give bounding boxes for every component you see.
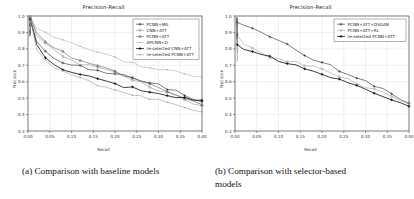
legend-label: re-selected PCNN+ATT (147, 52, 195, 57)
legend-label: re-selected CNN+ATT (147, 46, 192, 51)
svg-text:0.20: 0.20 (317, 134, 327, 139)
caption-b-line2: models (215, 178, 400, 191)
svg-text:0.3: 0.3 (225, 129, 232, 134)
legend-label: PCNN+ATT+RL (348, 28, 380, 33)
svg-text:0.05: 0.05 (252, 134, 262, 139)
legend-label: PCNN+ATT+DSGAN (348, 22, 389, 27)
svg-text:0.20: 0.20 (110, 134, 120, 139)
svg-text:0.05: 0.05 (45, 134, 55, 139)
svg-text:1.0: 1.0 (225, 14, 232, 19)
svg-text:0.6: 0.6 (18, 79, 25, 84)
panel-b-plot: 0.000.050.100.150.200.250.300.350.400.30… (207, 0, 414, 158)
svg-text:0.8: 0.8 (225, 46, 232, 51)
caption-a: (a) Comparison with baseline models (0, 158, 207, 199)
svg-text:0.5: 0.5 (225, 96, 232, 101)
svg-text:0.35: 0.35 (383, 134, 393, 139)
svg-text:1.0: 1.0 (18, 14, 25, 19)
legend-label: CNN+ATT (147, 28, 168, 33)
legend-label: APCNN+D (147, 40, 168, 45)
svg-text:0.10: 0.10 (274, 134, 284, 139)
svg-text:0.3: 0.3 (18, 129, 25, 134)
caption-b: (b) Comparison with selector-based model… (207, 158, 414, 199)
svg-text:0.4: 0.4 (18, 112, 25, 117)
svg-text:0.15: 0.15 (89, 134, 99, 139)
legend-label: PCNN+MIL (147, 22, 170, 27)
figure-captions: (a) Comparison with baseline models (b) … (0, 158, 414, 199)
svg-text:0.5: 0.5 (18, 96, 25, 101)
caption-b-line1: (b) Comparison with selector-based (215, 165, 400, 178)
svg-text:0.00: 0.00 (23, 134, 33, 139)
svg-text:0.9: 0.9 (225, 30, 232, 35)
svg-text:0.7: 0.7 (225, 63, 232, 68)
svg-text:0.00: 0.00 (230, 134, 240, 139)
svg-text:0.35: 0.35 (176, 134, 186, 139)
svg-text:0.8: 0.8 (18, 46, 25, 51)
svg-text:0.40: 0.40 (404, 134, 414, 139)
svg-text:0.9: 0.9 (18, 30, 25, 35)
svg-text:0.30: 0.30 (154, 134, 164, 139)
panel-b: Precision-Recall Precision Recall 0.000.… (207, 0, 414, 158)
svg-text:0.7: 0.7 (18, 63, 25, 68)
svg-text:0.15: 0.15 (296, 134, 306, 139)
svg-text:0.30: 0.30 (361, 134, 371, 139)
figure-precision-recall: Precision-Recall Precision Recall 0.000.… (0, 0, 414, 199)
panel-a: Precision-Recall Precision Recall 0.000.… (0, 0, 207, 158)
legend-label: re-selected PCNN+ATT (348, 34, 396, 39)
legend-label: PCNN+ATT (147, 34, 170, 39)
svg-text:0.6: 0.6 (225, 79, 232, 84)
panel-a-plot: 0.000.050.100.150.200.250.300.350.400.30… (0, 0, 207, 158)
svg-text:0.10: 0.10 (67, 134, 77, 139)
svg-text:0.25: 0.25 (339, 134, 349, 139)
figure-panels: Precision-Recall Precision Recall 0.000.… (0, 0, 414, 158)
svg-text:0.25: 0.25 (132, 134, 142, 139)
svg-text:0.40: 0.40 (197, 134, 207, 139)
svg-text:0.4: 0.4 (225, 112, 232, 117)
